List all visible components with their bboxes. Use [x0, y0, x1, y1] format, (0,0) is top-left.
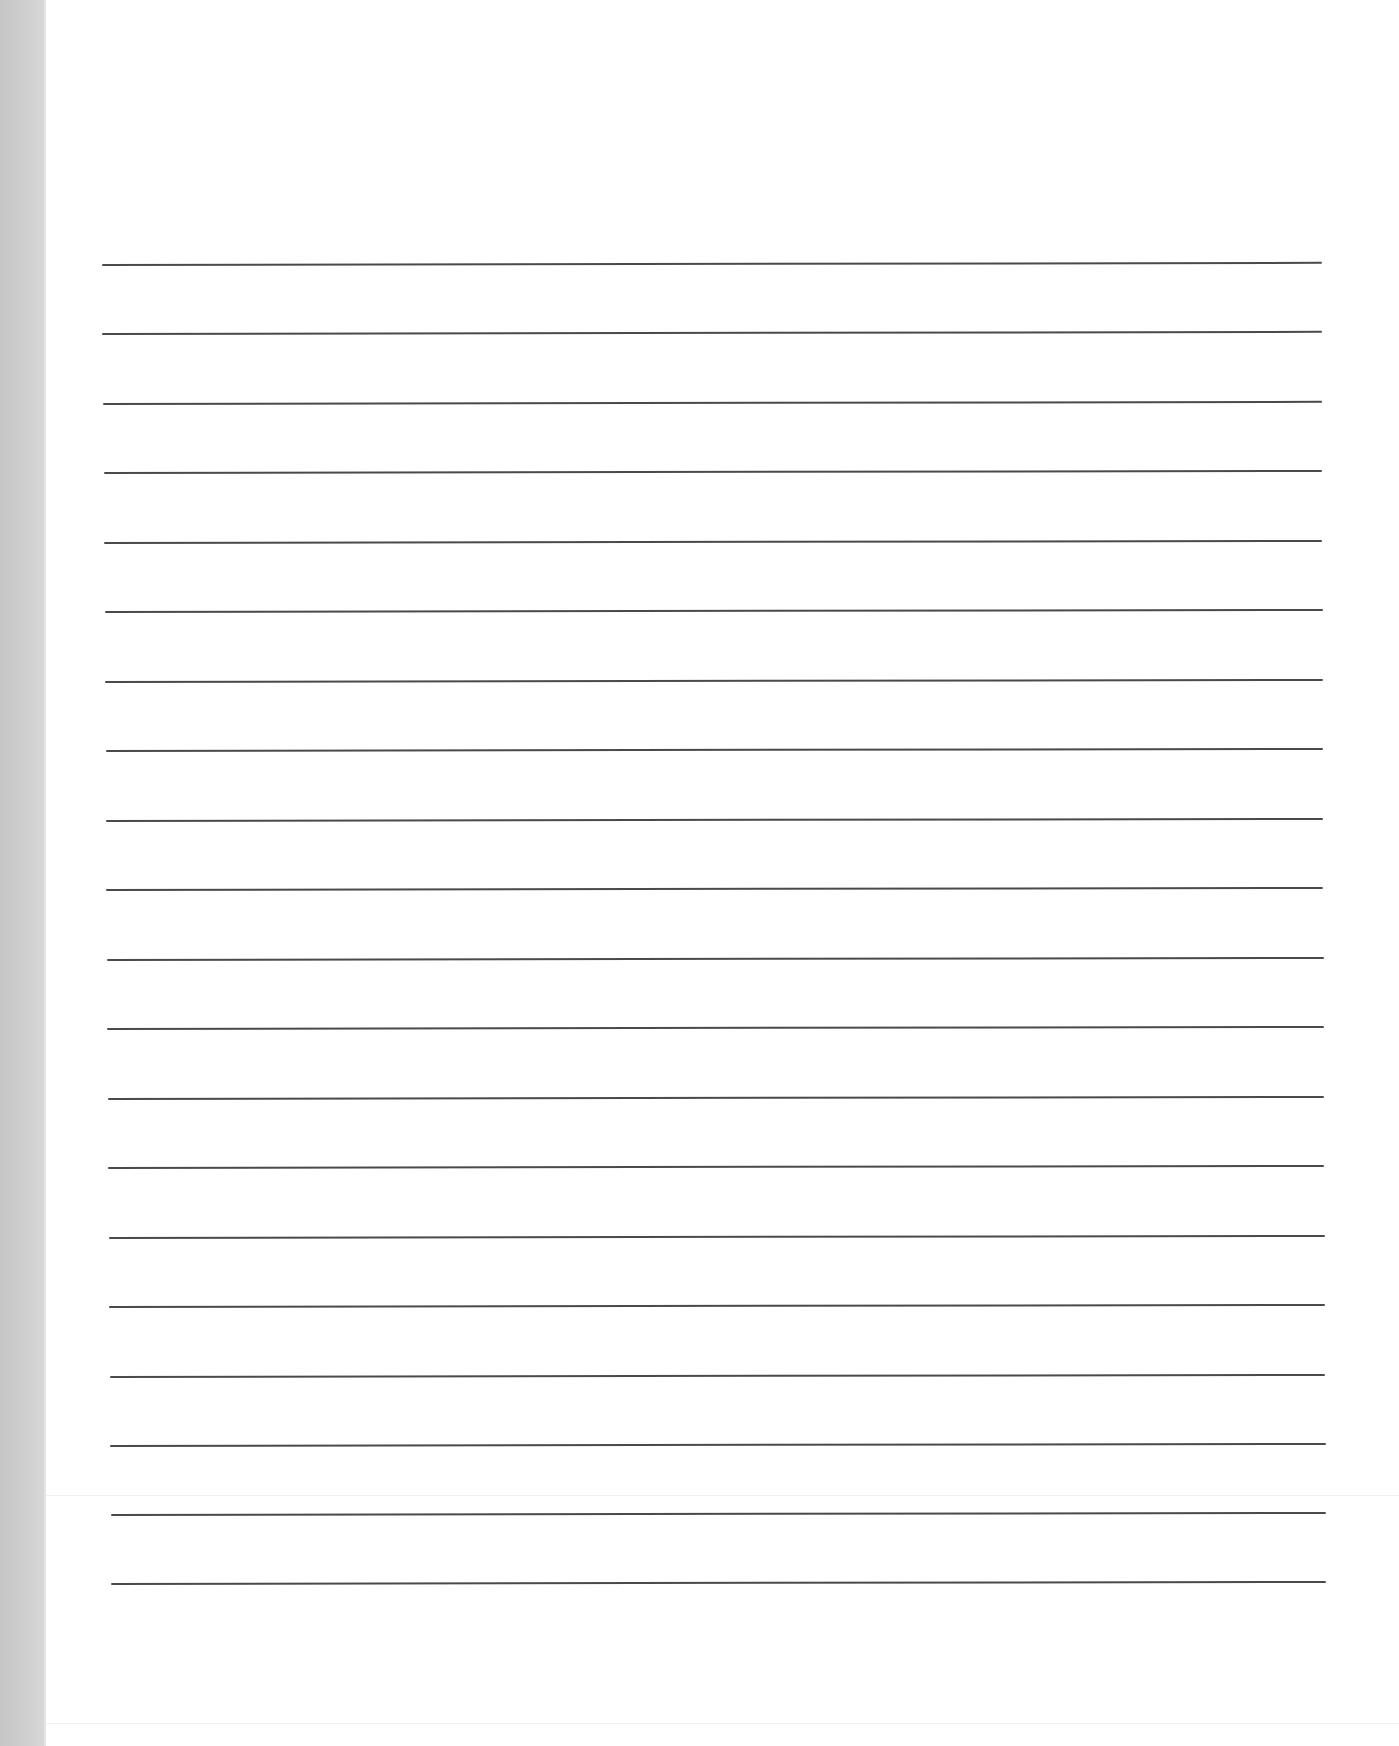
paper-fold-line	[46, 1723, 1399, 1724]
scan-edge-strip	[0, 0, 46, 1746]
paper-fold-line	[46, 1495, 1399, 1496]
